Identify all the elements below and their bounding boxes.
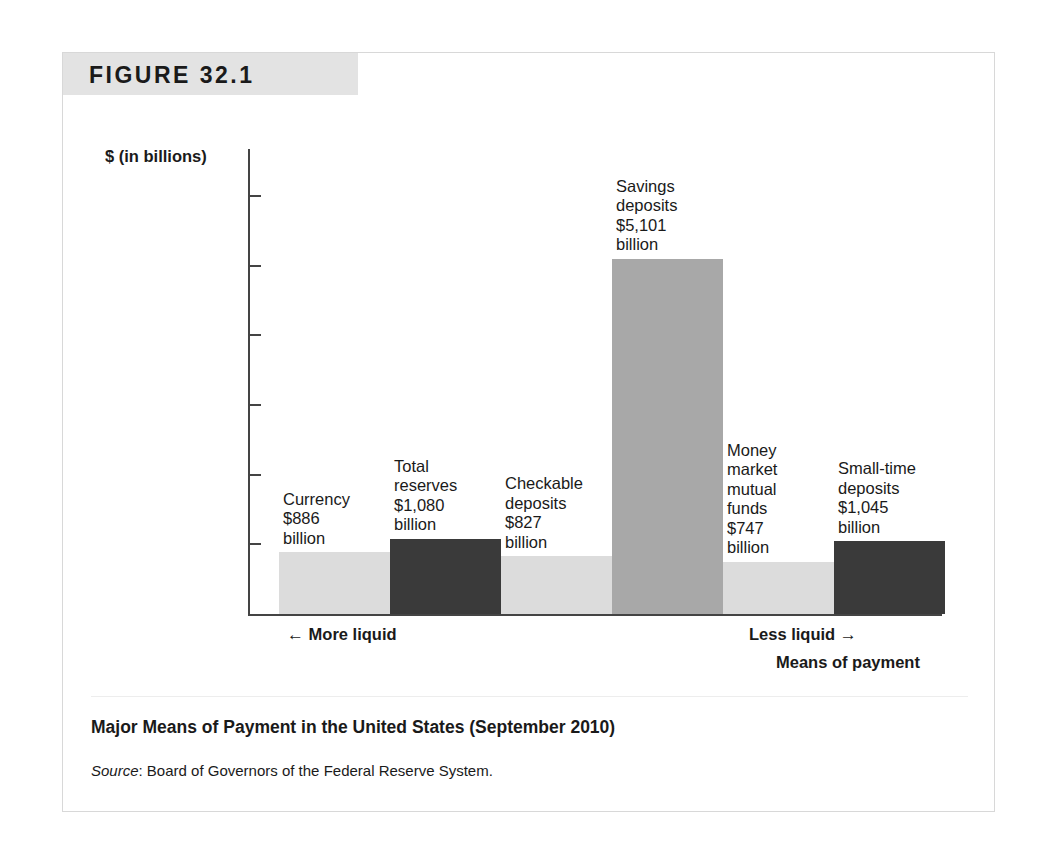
bar-label-line: $827 xyxy=(505,513,583,532)
bar-rect xyxy=(834,541,945,614)
more-liquid-annotation: ← More liquid xyxy=(287,625,397,645)
bar-rect xyxy=(279,552,390,614)
bar-label-line: Small-time xyxy=(838,459,916,478)
bar-label-line: Currency xyxy=(283,490,350,509)
source-text: : Board of Governors of the Federal Rese… xyxy=(139,762,493,779)
bar-label: Checkabledeposits$827billion xyxy=(505,474,583,552)
bar-label-line: Total xyxy=(394,457,457,476)
bar-label-line: deposits xyxy=(505,494,583,513)
bar-label: Small-timedeposits$1,045billion xyxy=(838,459,916,537)
bar-label-line: billion xyxy=(394,515,457,534)
less-liquid-label: Less liquid xyxy=(749,625,835,643)
bar: Currency$886billion xyxy=(279,552,390,614)
figure-box: FIGURE 32.1 $ (in billions) $6,000$5,000… xyxy=(62,52,995,812)
figure-caption-title: Major Means of Payment in the United Sta… xyxy=(91,717,615,738)
bar-chart: $ (in billions) $6,000$5,000$4,000$3,000… xyxy=(63,53,996,693)
bar-label-line: Money xyxy=(727,441,777,460)
bar-label-line: Savings xyxy=(616,177,677,196)
bar-label-line: reserves xyxy=(394,476,457,495)
bar-rect xyxy=(501,556,612,614)
bar-label-line: billion xyxy=(505,533,583,552)
bar-label-line: Checkable xyxy=(505,474,583,493)
bar-label-line: $1,045 xyxy=(838,498,916,517)
bar: Checkabledeposits$827billion xyxy=(501,556,612,614)
bar: Small-timedeposits$1,045billion xyxy=(834,541,945,614)
bar-label-line: deposits xyxy=(616,196,677,215)
less-liquid-annotation: Less liquid → xyxy=(749,625,857,645)
bar-label-line: billion xyxy=(727,538,777,557)
bar-label-line: $5,101 xyxy=(616,216,677,235)
bar-label: Totalreserves$1,080billion xyxy=(394,457,457,535)
bar-label-line: billion xyxy=(616,235,677,254)
bar-label-line: funds xyxy=(727,499,777,518)
bar-rect xyxy=(723,562,834,614)
caption-divider xyxy=(91,696,968,697)
left-arrow-icon: ← xyxy=(287,625,304,644)
bar-label: Moneymarketmutualfunds$747billion xyxy=(727,441,777,558)
figure-source-line: Source: Board of Governors of the Federa… xyxy=(91,762,493,779)
bar-label-line: $1,080 xyxy=(394,496,457,515)
x-axis-title: Means of payment xyxy=(776,653,920,672)
bar-label-line: $886 xyxy=(283,509,350,528)
bar-label-line: billion xyxy=(838,518,916,537)
bar-rect xyxy=(390,539,501,614)
bar-label-line: mutual xyxy=(727,480,777,499)
bar: Totalreserves$1,080billion xyxy=(390,539,501,614)
bar-label-line: deposits xyxy=(838,479,916,498)
more-liquid-label: More liquid xyxy=(309,625,397,643)
bar-label-line: billion xyxy=(283,529,350,548)
bar: Savingsdeposits$5,101billion xyxy=(612,259,723,614)
source-label: Source xyxy=(91,762,139,779)
bar-rect xyxy=(612,259,723,614)
bar-label: Savingsdeposits$5,101billion xyxy=(616,177,677,255)
bar-label-line: market xyxy=(727,460,777,479)
bar-label-line: $747 xyxy=(727,519,777,538)
bar-label: Currency$886billion xyxy=(283,490,350,549)
bar: Moneymarketmutualfunds$747billion xyxy=(723,562,834,614)
right-arrow-icon: → xyxy=(840,625,857,644)
bars-group: Currency$886billionTotalreserves$1,080bi… xyxy=(63,53,996,693)
